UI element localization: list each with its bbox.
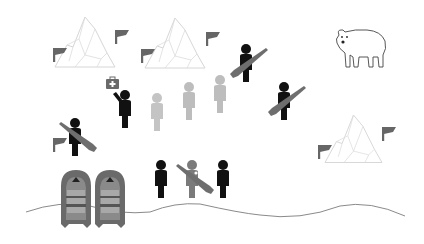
- guard-with-rifle-icon: [230, 44, 268, 82]
- person-icon: [217, 160, 229, 198]
- person-icon: [183, 82, 195, 120]
- iceberg-icon: [55, 17, 115, 67]
- guard-with-rifle-icon: [268, 82, 306, 120]
- iceberg-icon: [325, 115, 382, 163]
- polar-bear-icon: [336, 30, 385, 67]
- inflatable-boat-icon: [61, 170, 91, 228]
- person-icon: [151, 93, 163, 131]
- guard-with-rifle-icon: [59, 118, 97, 156]
- iceberg-icon: [145, 18, 205, 68]
- inflatable-boat-icon: [95, 170, 125, 228]
- flag-icon: [115, 30, 129, 44]
- flag-icon: [53, 138, 67, 152]
- scene-canvas: [0, 0, 424, 244]
- person-icon: [214, 75, 226, 113]
- guard-with-rifle-icon: [176, 160, 214, 198]
- flag-icon: [382, 127, 396, 141]
- person-icon: [155, 160, 167, 198]
- medic-person-icon: [113, 90, 131, 128]
- flag-icon: [206, 32, 220, 46]
- medkit-icon: [106, 77, 119, 89]
